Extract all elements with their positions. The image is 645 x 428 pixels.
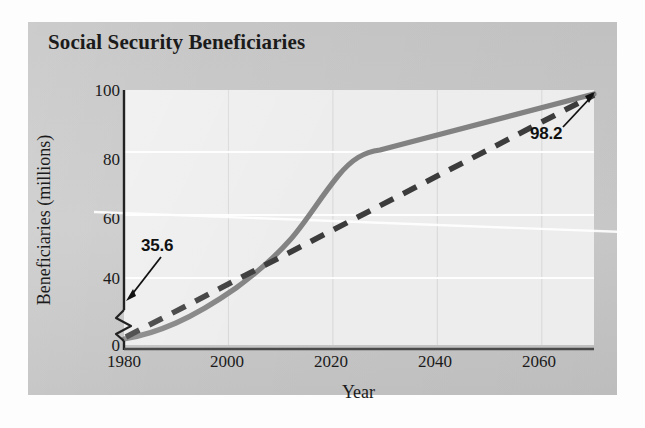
figure-root: Social Security Beneficiaries Beneficiar…	[0, 0, 645, 428]
annotation-arrow-end	[563, 92, 595, 127]
axis-break-icon	[116, 310, 131, 341]
annotation-start-value: 35.6	[141, 236, 173, 256]
annotation-arrow-start	[126, 257, 161, 301]
axis-overlay	[0, 0, 645, 428]
annotation-end-value: 98.2	[530, 124, 562, 144]
